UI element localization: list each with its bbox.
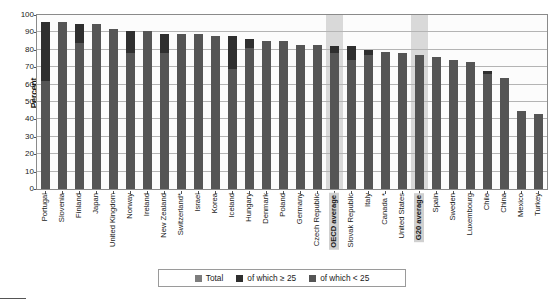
x-axis-label-slot: Hungary — [240, 191, 257, 261]
y-axis-tick-label: 50 — [8, 98, 34, 106]
x-axis-tick-label: Turkey — [534, 193, 542, 216]
y-axis-tick-label: 90 — [8, 28, 34, 36]
bar-segment-lt25 — [126, 31, 135, 189]
x-axis-tick-label: Portugal — [41, 193, 49, 221]
bar[interactable] — [500, 78, 509, 189]
legend-swatch-lt25 — [309, 275, 316, 282]
x-axis-tick-label: Germany — [296, 193, 304, 224]
bar-segment-ge25 — [364, 50, 373, 55]
x-axis-label-slot: Turkey — [529, 191, 546, 261]
x-axis-label-slot: Spain — [427, 191, 444, 261]
y-axis-tick-label: 0 — [8, 185, 34, 193]
bar[interactable] — [279, 41, 288, 189]
x-axis-tick-label: Czech Republic — [313, 193, 321, 246]
bar[interactable] — [432, 57, 441, 189]
x-axis-label-slot: Ireland — [138, 191, 155, 261]
bar[interactable] — [466, 62, 475, 189]
bar[interactable] — [398, 53, 407, 189]
bar[interactable] — [313, 45, 322, 189]
bar-segment-lt25 — [432, 57, 441, 189]
bar-segment-lt25 — [109, 29, 118, 189]
bar[interactable] — [381, 52, 390, 189]
footer-rule — [0, 298, 26, 299]
bar[interactable] — [262, 41, 271, 189]
x-axis-label-slot: Sweden — [444, 191, 461, 261]
bar-segment-lt25 — [517, 111, 526, 189]
x-axis-label-slot: New Zealand — [155, 191, 172, 261]
x-axis-tick-label: Norway — [126, 193, 134, 219]
bars-layer — [37, 15, 547, 189]
x-axis-tick-label: Italy — [364, 193, 372, 207]
x-axis-label-slot: Slovenia — [53, 191, 70, 261]
x-axis-tick-label: G20 average — [414, 193, 424, 242]
x-axis-tick-label: Slovak Republic — [347, 193, 355, 247]
legend-swatch-ge25 — [236, 275, 243, 282]
x-axis-tick-label: New Zealand — [160, 193, 168, 238]
legend-label-total: Total — [206, 273, 224, 283]
bar-segment-lt25 — [466, 62, 475, 189]
bar-segment-lt25 — [92, 24, 101, 189]
legend-item-total: Total — [195, 273, 224, 283]
y-axis-tick-label: 20 — [8, 150, 34, 158]
x-axis-tick-label: Luxembourg — [466, 193, 474, 235]
bar[interactable] — [228, 36, 237, 189]
bar[interactable] — [330, 46, 339, 189]
x-axis-label-slot: Chile — [478, 191, 495, 261]
bar[interactable] — [534, 114, 543, 189]
x-axis-tick-label: Canada * — [381, 193, 389, 225]
x-axis-label-slot: Germany — [291, 191, 308, 261]
x-axis-tick-label: China — [500, 193, 508, 213]
legend-label-ge25: of which ≥ 25 — [247, 273, 296, 283]
bar[interactable] — [41, 22, 50, 189]
chart-legend: Total of which ≥ 25 of which < 25 — [158, 269, 406, 287]
x-axis-label-slot: OECD average — [325, 191, 342, 261]
x-axis-label-slot: China — [495, 191, 512, 261]
x-axis-label-slot: Luxembourg — [461, 191, 478, 261]
bar-segment-ge25 — [160, 34, 169, 53]
x-axis-label-slot: Mexico — [512, 191, 529, 261]
bar[interactable] — [92, 24, 101, 189]
bar[interactable] — [160, 34, 169, 189]
bar[interactable] — [415, 55, 424, 189]
bar-segment-lt25 — [160, 34, 169, 189]
bar[interactable] — [75, 24, 84, 189]
x-axis-label-slot: Israel — [189, 191, 206, 261]
bar[interactable] — [194, 34, 203, 189]
bar-segment-ge25 — [483, 71, 492, 74]
bar[interactable] — [483, 71, 492, 189]
bar-segment-lt25 — [364, 50, 373, 189]
x-axis-tick-label: Iceland — [228, 193, 236, 218]
x-axis-label-slot: G20 average — [410, 191, 427, 261]
bar-segment-lt25 — [296, 45, 305, 189]
legend-item-ge25: of which ≥ 25 — [236, 273, 296, 283]
y-axis-tick-labels: 1009080706050403020100 — [4, 14, 34, 190]
bar-segment-lt25 — [347, 46, 356, 189]
x-axis-tick-label: United States — [398, 193, 406, 239]
bar[interactable] — [126, 31, 135, 189]
bar[interactable] — [517, 111, 526, 189]
bar-segment-lt25 — [177, 34, 186, 189]
x-axis-tick-label: Poland — [279, 193, 287, 217]
x-axis-label-slot: Finland — [70, 191, 87, 261]
bar[interactable] — [211, 36, 220, 189]
bar[interactable] — [109, 29, 118, 189]
y-axis-tick-label: 30 — [8, 133, 34, 141]
bar[interactable] — [177, 34, 186, 189]
bar[interactable] — [58, 22, 67, 189]
x-axis-tick-label: United Kingdom — [109, 193, 117, 247]
bar-segment-lt25 — [415, 55, 424, 189]
bar[interactable] — [347, 46, 356, 189]
bar[interactable] — [296, 45, 305, 189]
bar[interactable] — [143, 31, 152, 189]
x-axis-tick-label: Spain — [432, 193, 440, 212]
bar[interactable] — [364, 50, 373, 189]
x-axis-label-slot: Iceland — [223, 191, 240, 261]
bar-segment-lt25 — [279, 41, 288, 189]
x-axis-category-labels: PortugalSloveniaFinlandJapanUnited Kingd… — [36, 191, 548, 261]
bar-segment-lt25 — [245, 39, 254, 189]
x-axis-tick-label: Hungary — [245, 193, 253, 222]
bar-segment-lt25 — [483, 71, 492, 189]
bar[interactable] — [245, 39, 254, 189]
bar[interactable] — [449, 60, 458, 189]
x-axis-tick-label: Sweden — [449, 193, 457, 220]
